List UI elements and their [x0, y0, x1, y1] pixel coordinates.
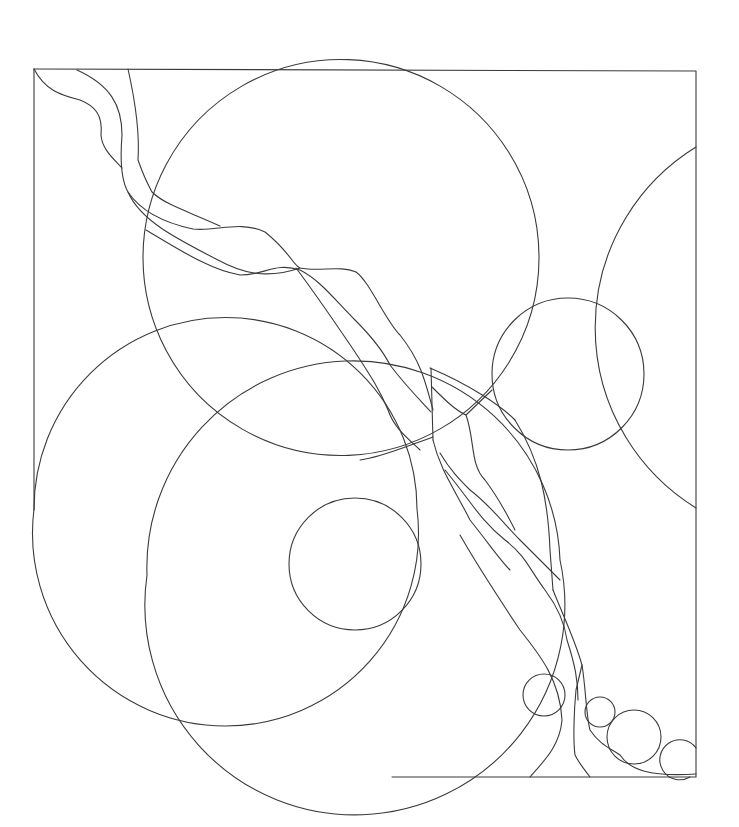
- large-upper-circle: [143, 60, 539, 456]
- line-art-canvas: [0, 0, 739, 827]
- bubble-1: [523, 674, 565, 716]
- ribbon: [34, 69, 696, 777]
- right-edge-circle: [595, 147, 696, 508]
- center-large-circle: [145, 361, 565, 815]
- bubble-3: [607, 710, 661, 764]
- left-large-circle: [32, 318, 418, 727]
- circles: [32, 60, 696, 815]
- frame: [34, 69, 696, 777]
- bubble-2: [585, 697, 615, 727]
- inner-small-circle: [289, 498, 421, 630]
- right-mid-circle: [492, 298, 644, 450]
